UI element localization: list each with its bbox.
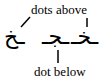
dot-below-label: dot below	[34, 65, 86, 78]
glyph-jeem-medial: ـجـ	[42, 26, 69, 48]
glyph-khah-final: ـخ	[4, 26, 25, 48]
glyph-khah-medial: ـخـ	[71, 26, 98, 48]
dots-above-label: dots above	[31, 3, 87, 16]
